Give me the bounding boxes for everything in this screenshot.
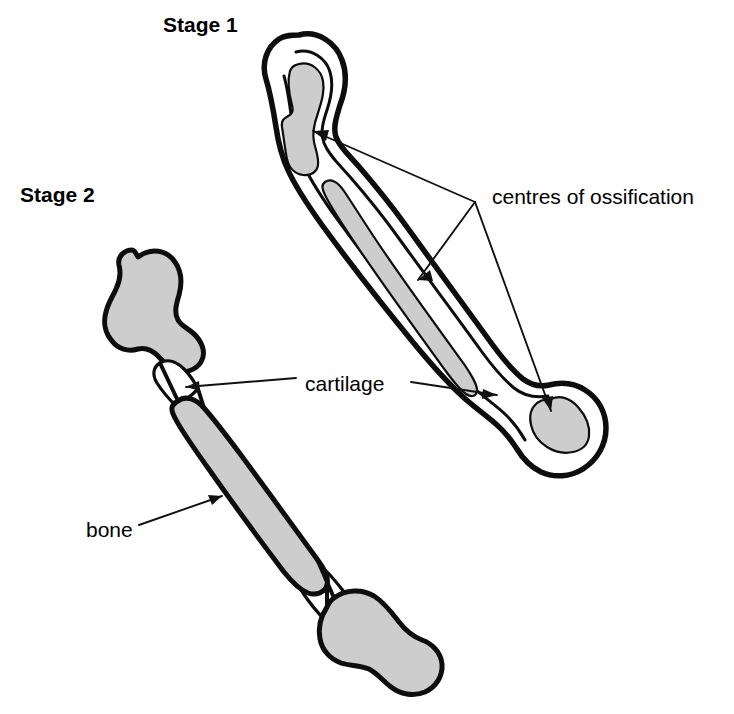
stage-2-label: Stage 2 [20,183,95,206]
leader-line-bone [139,496,222,525]
leader-arrowhead-bone [208,495,222,505]
leader-bone [139,495,222,525]
leader-line-cartilage-left [186,378,296,387]
stage-1-label: Stage 1 [163,13,238,36]
stage-2-proximal-epiphysis [105,250,204,372]
stage-2-bone-shaft [172,398,328,594]
centres-of-ossification-label: centres of ossification [492,185,694,208]
leader-line-diaphyseal-centre [418,202,475,280]
stage-1-bone [264,34,606,476]
bone-ossification-diagram: Stage 1 Stage 2 centres of ossification … [0,0,734,714]
bone-label: bone [86,518,133,541]
cartilage-label: cartilage [305,372,384,395]
stage-2-distal-epiphysis [319,591,442,695]
